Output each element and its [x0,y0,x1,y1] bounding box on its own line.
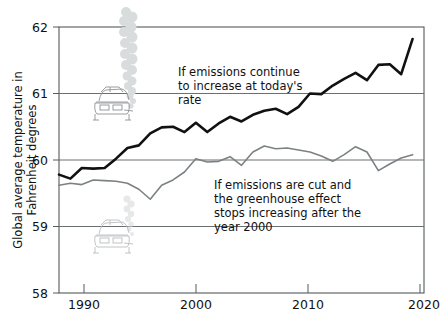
low-emissions-annotation-line-4: year 2000 [214,220,273,234]
low-emissions-annotation-line-1: If emissions are cut and [214,178,351,192]
xtick-label-1990: 1990 [68,297,100,312]
chart-figure: 62 61 60 59 58 1990 2000 2010 2020 Globa… [0,0,447,326]
y-axis-title-line-2: Fahrenheit degrees [25,105,39,216]
x-axis-ticks [84,284,420,293]
exhaust-plume-small-icon [123,195,134,236]
ytick-label-61: 61 [32,86,48,101]
low-emissions-annotation-line-2: the greenhouse effect [214,192,341,206]
chart-canvas: 62 61 60 59 58 1990 2000 2010 2020 Globa… [0,0,447,326]
ytick-label-59: 59 [32,219,48,234]
car-small-icon [93,220,133,253]
high-emissions-annotation-line-1: If emissions continue [178,65,300,79]
car-large-icon [93,87,133,120]
x-axis-tick-labels: 1990 2000 2010 2020 [68,297,440,312]
xtick-label-2000: 2000 [180,297,212,312]
xtick-label-2020: 2020 [408,297,440,312]
car-with-exhaust-plume-small-icon [93,195,135,253]
high-emissions-annotation-line-3: rate [178,93,201,107]
y-axis-title-line-1: Global average temperature in [11,71,25,249]
xtick-label-2010: 2010 [292,297,324,312]
ytick-label-62: 62 [32,20,48,35]
ytick-label-58: 58 [32,286,48,301]
high-emissions-annotation-line-2: to increase at today's [178,79,302,93]
car-with-exhaust-plume-large-icon [93,7,138,120]
low-emissions-annotation-line-3: stops increasing after the [214,206,361,220]
series-line-high-emissions [59,39,413,179]
high-emissions-annotation: If emissions continue to increase at tod… [178,65,302,107]
low-emissions-annotation: If emissions are cut and the greenhouse … [214,178,361,234]
y-axis-ticks [53,27,59,293]
